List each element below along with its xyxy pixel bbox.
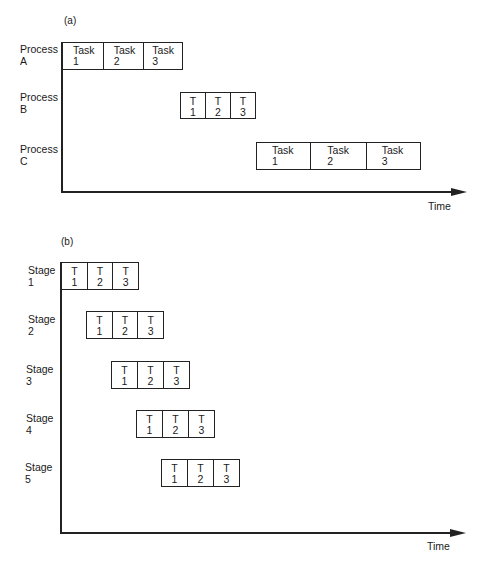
- panel-b-label: (b): [61, 236, 73, 247]
- row-label-stage-5: Stage 5: [25, 461, 52, 485]
- task-cell: T3: [113, 263, 138, 289]
- process-c-tasks: Task1 Task2 Task3: [256, 142, 421, 170]
- task-cell: T3: [164, 362, 189, 388]
- task-cell: T3: [189, 411, 214, 437]
- task-cell: Task3: [144, 43, 182, 69]
- task-cell: Task2: [311, 143, 366, 169]
- task-cell: T1: [137, 411, 163, 437]
- row-label-stage-3: Stage 3: [26, 363, 53, 387]
- task-cell: T1: [62, 263, 88, 289]
- stage-2-tasks: T1 T2 T3: [86, 311, 164, 339]
- task-cell: T1: [87, 312, 113, 338]
- row-label-stage-1: Stage 1: [28, 264, 55, 288]
- arrow-head-icon: [450, 529, 466, 537]
- task-cell: T3: [214, 460, 239, 486]
- row-label-process-a: Process A: [20, 43, 58, 67]
- task-cell: T1: [162, 460, 188, 486]
- process-b-tasks: T1 T2 T3: [180, 92, 256, 119]
- task-cell: T3: [231, 93, 255, 118]
- task-cell: T1: [112, 362, 138, 388]
- time-axis-label-a: Time: [428, 200, 451, 212]
- row-label-stage-4: Stage 4: [26, 412, 53, 436]
- task-cell: T2: [206, 93, 231, 118]
- panel-a-label: (a): [64, 15, 76, 26]
- task-cell: T1: [181, 93, 206, 118]
- x-axis-a: [61, 191, 453, 193]
- stage-3-tasks: T1 T2 T3: [111, 361, 190, 389]
- task-cell: Task1: [257, 143, 311, 169]
- task-cell: T3: [138, 312, 163, 338]
- x-axis-b: [60, 532, 452, 534]
- task-cell: T2: [188, 460, 214, 486]
- row-label-stage-2: Stage 2: [28, 313, 55, 337]
- task-cell: T2: [163, 411, 189, 437]
- row-label-process-c: Process C: [20, 143, 58, 167]
- task-cell: Task1: [63, 43, 104, 69]
- task-cell: T2: [138, 362, 164, 388]
- stage-5-tasks: T1 T2 T3: [161, 459, 240, 487]
- row-label-process-b: Process B: [20, 91, 58, 115]
- stage-1-tasks: T1 T2 T3: [61, 262, 139, 290]
- process-a-tasks: Task1 Task2 Task3: [62, 42, 183, 70]
- task-cell: Task3: [367, 143, 420, 169]
- task-cell: T2: [88, 263, 114, 289]
- task-cell: Task2: [104, 43, 145, 69]
- arrow-head-icon: [451, 188, 467, 196]
- task-cell: T2: [113, 312, 139, 338]
- stage-4-tasks: T1 T2 T3: [136, 410, 215, 438]
- time-axis-label-b: Time: [427, 540, 450, 552]
- y-axis-b: [60, 262, 62, 534]
